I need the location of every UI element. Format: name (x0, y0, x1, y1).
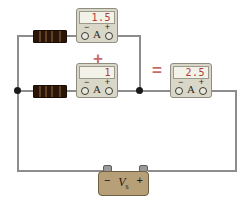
voltage-source-symbol: V (118, 175, 125, 189)
ammeter-middle[interactable]: 1 − + A (76, 63, 118, 98)
ammeter-top-terminals: − + A (79, 24, 115, 41)
equals-operator: = (152, 62, 162, 79)
ammeter-total[interactable]: 2.5 − + A (170, 63, 212, 98)
ammeter-middle-positive-terminal[interactable] (105, 87, 113, 95)
ammeter-top-negative-terminal[interactable] (81, 32, 89, 40)
ammeter-middle-terminals: − + A (79, 79, 115, 96)
voltage-source-label: Vs (118, 175, 128, 191)
ammeter-top-negative-sign: − (84, 23, 89, 32)
ammeter-total-negative-terminal[interactable] (175, 87, 183, 95)
junction-node-left (14, 87, 21, 94)
ammeter-middle-reading: 1 (104, 68, 111, 78)
junction-node-right (136, 87, 143, 94)
resistor-top (33, 30, 67, 43)
ammeter-total-negative-sign: − (178, 78, 183, 87)
circuit-diagram: 1.5 − + A + 1 − + A = 2.5 − + (0, 0, 247, 201)
wire-bottom-left (17, 170, 107, 172)
ammeter-top-positive-sign: + (105, 23, 110, 32)
battery-positive-sign: + (137, 175, 143, 186)
ammeter-top-positive-terminal[interactable] (105, 32, 113, 40)
ammeter-top[interactable]: 1.5 − + A (76, 8, 118, 43)
ammeter-total-terminals: − + A (173, 79, 209, 96)
ammeter-total-positive-sign: + (199, 78, 204, 87)
wire-bottom-right (148, 170, 237, 172)
wire-total-meter-to-right (210, 90, 237, 92)
wire-right-vertical (235, 90, 237, 172)
ammeter-total-unit-label: A (187, 84, 195, 95)
battery-negative-sign: − (104, 175, 110, 186)
ammeter-middle-unit-label: A (93, 84, 101, 95)
ammeter-total-positive-terminal[interactable] (199, 87, 207, 95)
voltage-source[interactable]: − + Vs (98, 171, 149, 196)
wire-left-vertical-bottom (17, 90, 19, 172)
ammeter-middle-negative-terminal[interactable] (81, 87, 89, 95)
resistor-bottom (33, 85, 67, 98)
wire-top-left (17, 35, 34, 37)
ammeter-total-reading: 2.5 (185, 68, 205, 78)
wire-top-meter-to-drop (117, 35, 141, 37)
wire-top-drop-vertical (139, 35, 141, 91)
ammeter-middle-positive-sign: + (105, 78, 110, 87)
ammeter-top-unit-label: A (93, 29, 101, 40)
ammeter-middle-negative-sign: − (84, 78, 89, 87)
voltage-source-subscript: s (126, 183, 129, 192)
ammeter-top-reading: 1.5 (91, 13, 111, 23)
wire-left-vertical-top (17, 35, 19, 91)
wire-node-to-total-meter (139, 90, 172, 92)
